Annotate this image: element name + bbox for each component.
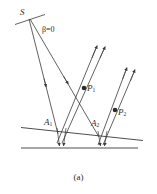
incident-ray-s-a2-arrowhead — [64, 76, 69, 84]
scattered-ray-a1-second-arrowhead — [100, 47, 105, 59]
label-point-p2: P2 — [118, 108, 126, 118]
label-point-p1: P1 — [87, 84, 95, 94]
label-point-a1-subscript: 1 — [50, 121, 53, 127]
point-marker-p1 — [82, 86, 87, 91]
label-point-a2: A2 — [91, 119, 99, 129]
scattered-ray-a1-p1 — [57, 48, 96, 143]
scattered-ray-a1-p1-arrowhead — [92, 46, 97, 59]
scattered-ray-a2-p2-arrowhead — [123, 68, 127, 80]
scattered-ray-a1-second — [62, 49, 104, 143]
label-point-p2-subscript: 2 — [124, 111, 127, 117]
scattered-ray-a2-second-arrowhead — [130, 70, 135, 82]
figure-caption: (a) — [0, 172, 157, 182]
label-beta-angle: β=0 — [42, 26, 55, 34]
label-point-p1-subscript: 1 — [93, 87, 96, 93]
label-point-a1: A1 — [44, 118, 52, 128]
incident-ray-s-a1-arrowhead — [44, 79, 46, 88]
label-source-s: S — [20, 8, 25, 17]
point-marker-p2 — [113, 108, 118, 113]
upper-interface-line — [21, 128, 143, 141]
ray-diagram — [0, 0, 157, 194]
label-point-a2-subscript: 2 — [97, 122, 100, 128]
figure-container: S β=0 P1 P2 A1 A2 (a) — [0, 0, 157, 194]
